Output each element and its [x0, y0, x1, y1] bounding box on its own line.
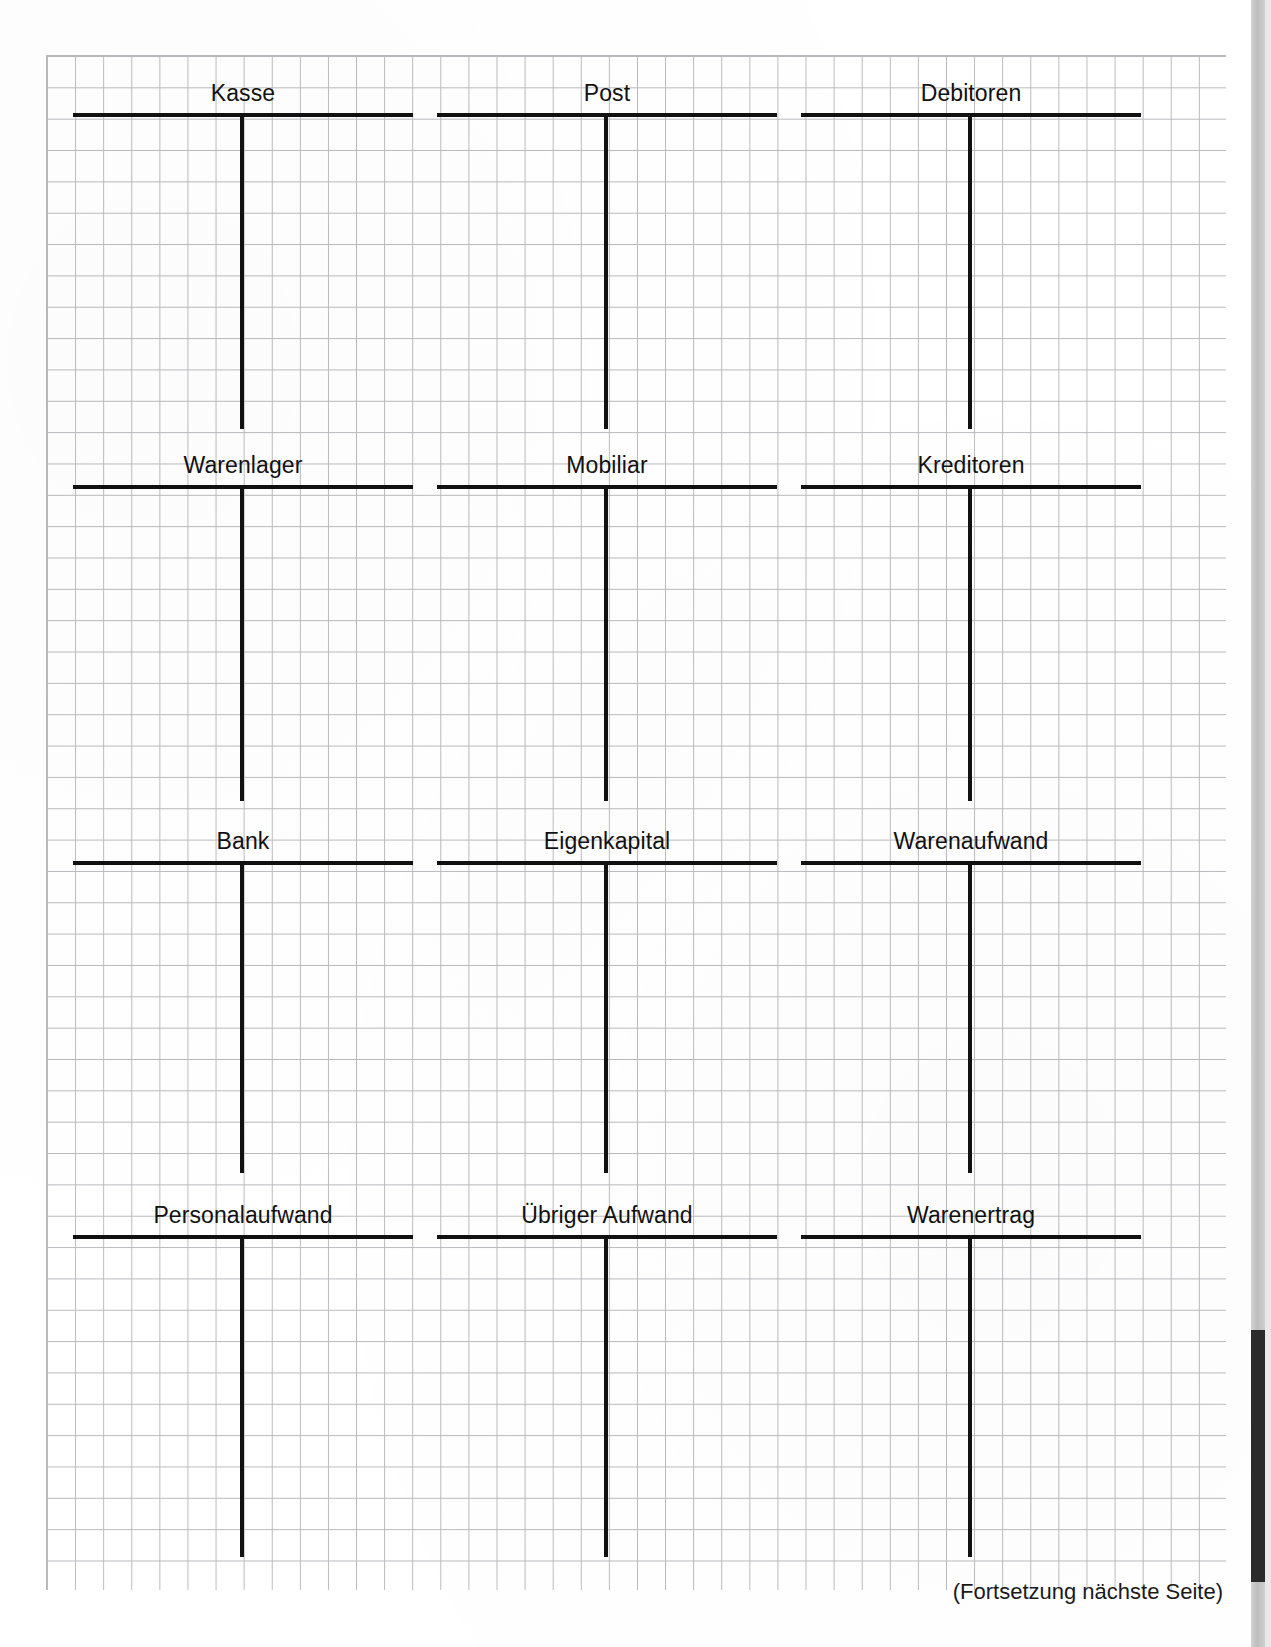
t-account-divider-stem: [240, 865, 244, 1173]
t-account-label: Kreditoren: [801, 454, 1141, 477]
t-account-divider-stem: [604, 489, 608, 801]
worksheet-page: KassePostDebitorenWarenlagerMobiliarKred…: [0, 0, 1271, 1647]
t-account-label: Eigenkapital: [437, 830, 777, 853]
t-account-label: Warenaufwand: [801, 830, 1141, 853]
t-account-divider-stem: [968, 1239, 972, 1557]
t-accounts-container: KassePostDebitorenWarenlagerMobiliarKred…: [0, 0, 1271, 1647]
t-account-divider-stem: [240, 1239, 244, 1557]
t-account-label: Personalaufwand: [73, 1204, 413, 1227]
t-account-divider-stem: [604, 1239, 608, 1557]
t-account-divider-stem: [240, 489, 244, 801]
continuation-note: (Fortsetzung nächste Seite): [953, 1579, 1223, 1605]
t-account-label: Übriger Aufwand: [437, 1204, 777, 1227]
t-account-divider-stem: [604, 117, 608, 429]
t-account-label: Kasse: [73, 82, 413, 105]
t-account-label: Mobiliar: [437, 454, 777, 477]
t-account-label: Warenlager: [73, 454, 413, 477]
t-account-divider-stem: [240, 117, 244, 429]
t-account-divider-stem: [968, 117, 972, 429]
t-account-divider-stem: [604, 865, 608, 1173]
t-account-divider-stem: [968, 865, 972, 1173]
scan-outer-margin: [1265, 0, 1271, 1647]
t-account-label: Debitoren: [801, 82, 1141, 105]
t-account-label: Warenertrag: [801, 1204, 1141, 1227]
t-account-divider-stem: [968, 489, 972, 801]
t-account-label: Bank: [73, 830, 413, 853]
t-account-label: Post: [437, 82, 777, 105]
